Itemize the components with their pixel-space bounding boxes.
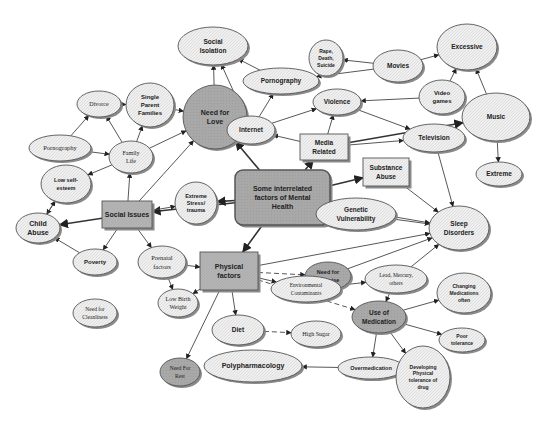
node-label: Rest xyxy=(175,373,185,379)
node-label: Pornography xyxy=(43,144,77,151)
node-label: Medication xyxy=(362,318,396,325)
node-label: Poverty xyxy=(84,259,107,265)
node-label: Television xyxy=(418,134,449,141)
node-label: Abuse xyxy=(27,229,49,236)
node-label: Low self- xyxy=(54,177,78,183)
edge-child-abuse-to-low-self-esteem xyxy=(47,201,55,214)
node-violence: Violence xyxy=(313,89,363,117)
edge-use-of-medication-to-overmedication xyxy=(373,333,377,357)
edge-media-related-to-violence xyxy=(328,115,334,134)
edge-need-for-exercise-to-sleep-disorders xyxy=(348,238,432,269)
node-rape-death-suicide: Rape,Death,Suicide xyxy=(309,40,345,78)
node-label: Overmedication xyxy=(350,365,392,371)
node-shape xyxy=(109,141,153,173)
edge-poverty-to-child-abuse xyxy=(55,238,80,253)
node-label: Contaminants xyxy=(291,290,322,296)
node-need-for-cleanliness: Need forCleanliness xyxy=(73,299,119,329)
node-label: Music xyxy=(487,113,506,120)
node-label: Life xyxy=(126,158,136,164)
node-need-for-rest: Need ForRest xyxy=(160,358,202,388)
node-label: often xyxy=(458,297,470,303)
node-poverty: Poverty xyxy=(73,249,119,277)
node-label: Some interrelated xyxy=(253,185,312,192)
edge-family-life-to-divorce xyxy=(106,116,122,142)
edge-family-life-to-low-self-esteem xyxy=(88,165,112,175)
node-label: Suicide xyxy=(317,62,335,68)
node-diet: Diet xyxy=(212,315,266,347)
edge-use-of-medication-to-changing-medications xyxy=(403,300,438,310)
edge-pornography-top-to-social-isolation xyxy=(238,59,260,70)
node-label: Isolation xyxy=(200,47,227,54)
edge-use-of-medication-to-poor-tolerance xyxy=(403,324,441,335)
node-use-of-medication: Use ofMedication xyxy=(352,301,408,335)
node-label: Need for xyxy=(201,109,230,116)
node-child-abuse: ChildAbuse xyxy=(16,213,62,245)
node-label: Media xyxy=(315,139,334,146)
node-label: Medications xyxy=(450,290,479,296)
edge-video-games-to-excessive xyxy=(450,68,456,81)
node-label: Pornography xyxy=(261,77,302,85)
edge-need-for-love-to-social-isolation xyxy=(214,65,215,85)
node-label: Weight xyxy=(169,304,187,310)
edge-social-issues-to-poverty xyxy=(103,228,118,250)
node-label: Polypharmacology xyxy=(222,362,285,370)
node-label: Developing xyxy=(410,364,437,370)
node-single-parent: SingleParentFamilies xyxy=(126,83,176,129)
edge-pornography-left-to-family-life xyxy=(90,152,110,154)
node-label: esteem xyxy=(57,185,76,191)
edge-social-issues-to-child-abuse xyxy=(59,218,102,224)
node-shape xyxy=(419,80,465,114)
node-extreme-stress: ExtremeStress/trauma xyxy=(175,182,219,226)
node-label: Parent xyxy=(141,102,160,108)
node-physical-factors: Physicalfactors xyxy=(200,252,261,293)
edge-center-to-extreme-stress xyxy=(217,201,235,202)
node-music: Music xyxy=(462,93,532,143)
node-label: Changing xyxy=(452,283,475,289)
node-label: Video xyxy=(434,90,451,96)
node-label: Cleanliness xyxy=(82,314,107,320)
edge-overmedication-to-polypharmacology xyxy=(302,367,338,368)
node-label: Social Issues xyxy=(105,211,149,218)
node-developing-tolerance: DevelopingPhysicaltolerance ofdrug xyxy=(396,346,452,410)
edge-family-life-to-single-parent xyxy=(137,126,143,142)
node-label: Single xyxy=(141,94,160,100)
node-label: tolerance of xyxy=(409,377,438,383)
node-label: Love xyxy=(207,118,223,125)
node-label: Substance xyxy=(370,164,403,171)
node-label: Poor xyxy=(456,333,467,339)
node-label: tolerance xyxy=(451,340,473,346)
node-label: Physical xyxy=(413,370,434,376)
node-label: Need for xyxy=(85,306,105,312)
node-label: Low Birth xyxy=(166,296,191,302)
node-label: factors of Mental xyxy=(254,194,310,201)
edge-substance-abuse-to-sleep-disorders xyxy=(404,186,438,212)
node-label: Divorce xyxy=(89,101,109,107)
node-label: Prenatal xyxy=(151,254,172,261)
node-label: Physical xyxy=(215,263,243,271)
edge-pornography-left-to-divorce xyxy=(71,116,89,136)
node-label: Environmental xyxy=(290,282,323,288)
edge-social-issues-to-prenatal xyxy=(137,228,151,248)
node-label: Abuse xyxy=(376,173,396,180)
edge-center-to-substance-abuse xyxy=(330,178,363,186)
node-label: Sleep xyxy=(450,220,467,228)
node-label: Families xyxy=(138,110,163,116)
node-label: drug xyxy=(417,384,428,390)
node-label: Need for xyxy=(317,269,340,275)
node-video-games: Videogames xyxy=(419,80,467,116)
node-polypharmacology: Polypharmacology xyxy=(204,350,304,384)
edge-use-of-medication-to-developing-tolerance xyxy=(390,332,406,354)
nodes-layer: Some interrelatedfactors of MentalHealth… xyxy=(16,24,532,410)
node-media-related: MediaRelated xyxy=(300,134,351,163)
node-label: Death, xyxy=(318,55,334,61)
node-pornography-left: Pornography xyxy=(29,135,93,163)
edge-physical-factors-to-diet xyxy=(232,290,236,315)
node-pornography-top: Pornography xyxy=(243,68,321,96)
mental-health-diagram: Some interrelatedfactors of MentalHealth… xyxy=(0,0,553,421)
node-label: High Sugar xyxy=(302,331,330,337)
node-excessive: Excessive xyxy=(437,24,499,72)
node-label: Need For xyxy=(170,365,191,371)
edge-television-to-sleep-disorders xyxy=(438,152,453,207)
node-label: others xyxy=(389,280,402,286)
node-changing-medications: ChangingMedicationsoften xyxy=(437,273,493,315)
